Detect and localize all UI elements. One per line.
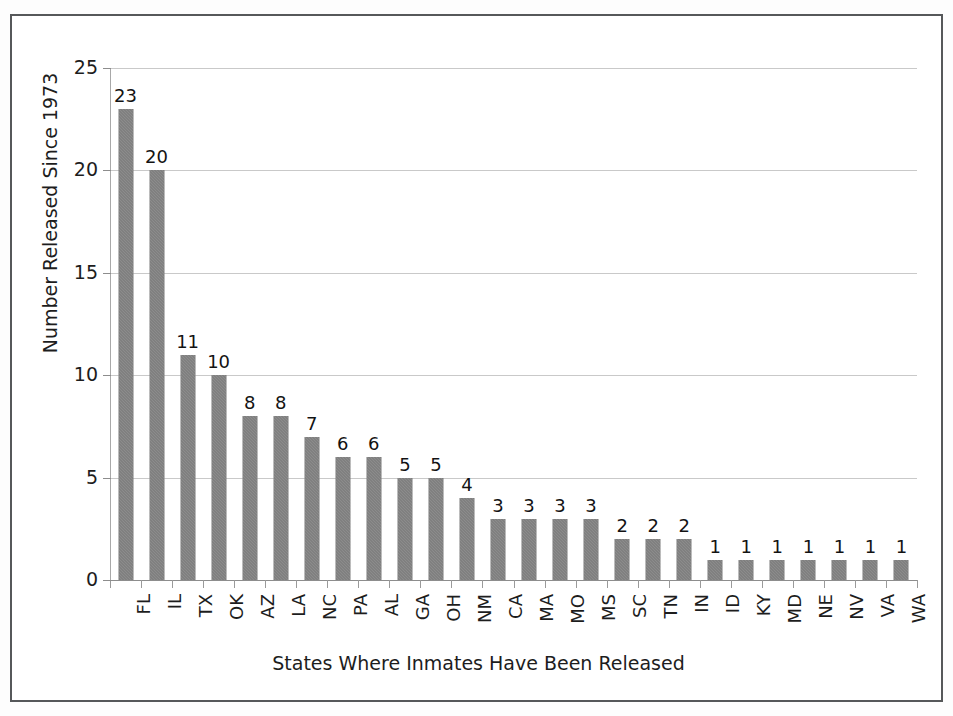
x-tick-mark	[793, 580, 794, 588]
bar[interactable]	[522, 519, 537, 580]
bar[interactable]	[211, 375, 226, 580]
bar-slot: 6	[327, 68, 358, 580]
x-tick-mark	[886, 580, 887, 588]
bar[interactable]	[149, 170, 164, 580]
bar[interactable]	[335, 457, 350, 580]
x-tick-mark	[607, 580, 608, 588]
bar[interactable]	[708, 560, 723, 580]
x-tick-mark	[482, 580, 483, 588]
y-tick-mark-5	[103, 478, 111, 479]
bar-value-label: 8	[275, 394, 286, 412]
plot-area: 232011108876655433332221111111	[110, 68, 917, 580]
bar-slot: 10	[203, 68, 234, 580]
bar-value-label: 2	[616, 517, 627, 535]
x-tick-label-va: VA	[879, 594, 897, 617]
bar[interactable]	[832, 560, 847, 580]
x-tick-label-wa: WA	[910, 594, 928, 623]
x-tick-label-mo: MO	[569, 594, 587, 624]
x-tick-label-ga: GA	[414, 594, 432, 620]
bar-value-label: 10	[207, 353, 230, 371]
x-tick-mark	[296, 580, 297, 588]
bar-slot: 6	[358, 68, 389, 580]
bar-value-label: 3	[554, 497, 565, 515]
figure-page: Number Released Since 1973 0510152025 23…	[0, 0, 953, 716]
bar[interactable]	[304, 437, 319, 580]
bar-value-label: 1	[896, 538, 907, 556]
bar-value-label: 1	[865, 538, 876, 556]
bar-slot: 2	[669, 68, 700, 580]
x-tick-mark	[855, 580, 856, 588]
bar-value-label: 6	[368, 435, 379, 453]
y-tick-label-5: 5	[52, 468, 98, 487]
x-tick-label-la: LA	[290, 594, 308, 617]
x-tick-mark	[514, 580, 515, 588]
bar-value-label: 6	[337, 435, 348, 453]
x-tick-label-ma: MA	[538, 594, 556, 622]
bar[interactable]	[273, 416, 288, 580]
bar[interactable]	[894, 560, 909, 580]
bar-value-label: 3	[585, 497, 596, 515]
bar[interactable]	[180, 355, 195, 580]
bar-slot: 23	[110, 68, 141, 580]
bar[interactable]	[770, 560, 785, 580]
x-tick-mark	[576, 580, 577, 588]
bar-value-label: 2	[647, 517, 658, 535]
bar[interactable]	[801, 560, 816, 580]
bar-value-label: 4	[461, 476, 472, 494]
x-tick-mark	[110, 580, 111, 588]
bar-value-label: 1	[741, 538, 752, 556]
bar[interactable]	[242, 416, 257, 580]
x-tick-mark	[824, 580, 825, 588]
bar-value-label: 5	[430, 456, 441, 474]
y-tick-mark-10	[103, 375, 111, 376]
bar-value-label: 1	[710, 538, 721, 556]
bar[interactable]	[615, 539, 630, 580]
x-tick-mark	[545, 580, 546, 588]
bar[interactable]	[677, 539, 692, 580]
x-tick-label-ca: CA	[507, 594, 525, 619]
x-tick-label-md: MD	[786, 594, 804, 623]
bar-value-label: 20	[145, 148, 168, 166]
bar[interactable]	[553, 519, 568, 580]
x-tick-label-nc: NC	[321, 594, 339, 620]
bar-slot: 1	[700, 68, 731, 580]
bar-slot: 3	[514, 68, 545, 580]
x-tick-mark	[669, 580, 670, 588]
bar[interactable]	[646, 539, 661, 580]
bar[interactable]	[584, 519, 599, 580]
bar-value-label: 3	[492, 497, 503, 515]
x-tick-mark	[172, 580, 173, 588]
x-tick-label-tn: TN	[662, 594, 680, 618]
bar-slot: 1	[824, 68, 855, 580]
bar[interactable]	[366, 457, 381, 580]
bar-value-label: 2	[678, 517, 689, 535]
bar-value-label: 1	[772, 538, 783, 556]
bar-slot: 8	[234, 68, 265, 580]
x-tick-mark	[358, 580, 359, 588]
bar[interactable]	[118, 109, 133, 580]
bar[interactable]	[428, 478, 443, 580]
x-tick-label-id: ID	[724, 594, 742, 613]
bar-slot: 20	[141, 68, 172, 580]
x-tick-mark	[762, 580, 763, 588]
x-tick-mark	[700, 580, 701, 588]
x-tick-label-nm: NM	[476, 594, 494, 623]
bar-value-label: 11	[176, 333, 199, 351]
bar[interactable]	[397, 478, 412, 580]
bar-value-label: 7	[306, 415, 317, 433]
x-tick-mark	[327, 580, 328, 588]
x-tick-label-ky: KY	[755, 594, 773, 616]
y-tick-label-0: 0	[52, 570, 98, 589]
x-tick-mark	[234, 580, 235, 588]
bar[interactable]	[459, 498, 474, 580]
y-tick-label-20: 20	[52, 160, 98, 179]
bar-slot: 1	[855, 68, 886, 580]
bar[interactable]	[739, 560, 754, 580]
bar[interactable]	[863, 560, 878, 580]
bar-slot: 2	[607, 68, 638, 580]
y-tick-label-25: 25	[52, 58, 98, 77]
x-tick-label-pa: PA	[352, 594, 370, 616]
x-tick-mark	[420, 580, 421, 588]
bar[interactable]	[490, 519, 505, 580]
figure-border: Number Released Since 1973 0510152025 23…	[10, 14, 943, 702]
